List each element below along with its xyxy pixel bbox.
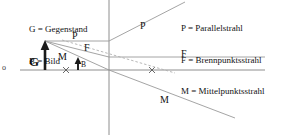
object-label-G: G [29, 55, 39, 68]
ray-type-legend: P = Parallelstrahl F = Brennpunktsstrahl… [181, 2, 265, 118]
ray-label-focal-far: F [181, 49, 187, 59]
ray-label-focal-near: F [84, 43, 90, 53]
ray-label-parallel-far: P [140, 21, 146, 31]
edge-artifact-mark: o [2, 64, 6, 72]
object-image-legend: G = Gegenstand B = Bild [29, 3, 88, 87]
legend-right-row: F = Brennpunktsstrahl [181, 55, 265, 66]
ray-label-parallel-near: P [72, 31, 78, 41]
image-label-B: B [81, 61, 86, 69]
optics-ray-diagram: G = Gegenstand B = Bild P = Parallelstra… [0, 0, 290, 135]
legend-right-row: P = Parallelstrahl [181, 23, 265, 34]
ray-label-center-near: M [58, 52, 67, 62]
legend-left-row: G = Gegenstand [29, 24, 88, 35]
ray-label-center-far: M [160, 95, 169, 105]
legend-right-row: M = Mittelpunktsstrahl [181, 86, 265, 97]
